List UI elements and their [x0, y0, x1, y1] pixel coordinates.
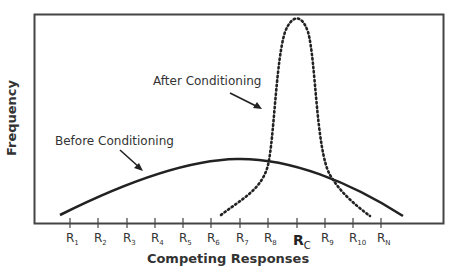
- x-tick-label-r3: R3: [123, 231, 136, 247]
- x-tick-label-r9: R9: [321, 231, 334, 247]
- plot-frame: [35, 15, 444, 224]
- after-conditioning-arrow: [230, 93, 262, 109]
- x-tick-label-rn: RN: [377, 231, 391, 247]
- x-tick-label-r2: R2: [94, 231, 107, 247]
- x-tick-label-r8: R8: [264, 231, 277, 247]
- x-tick-label-r7: R7: [236, 231, 249, 247]
- after-conditioning-label: After Conditioning: [153, 74, 261, 88]
- x-tick-label-rc: RC: [293, 232, 311, 251]
- x-tick-label-r6: R6: [207, 231, 220, 247]
- chart-canvas: R1R2R3R4R5R6R7R8RCR9R10RN After Conditio…: [0, 0, 453, 276]
- x-axis-title: Competing Responses: [147, 251, 310, 266]
- before-conditioning-label: Before Conditioning: [55, 134, 174, 148]
- before-conditioning-arrow: [120, 150, 143, 171]
- x-tick-label-r1: R1: [66, 231, 79, 247]
- x-tick-label-r10: R10: [349, 231, 366, 247]
- x-tick-label-r4: R4: [151, 231, 164, 247]
- x-tick-label-r5: R5: [179, 231, 192, 247]
- x-axis-tick-labels: R1R2R3R4R5R6R7R8RCR9R10RN: [66, 231, 391, 251]
- y-axis-title: Frequency: [4, 79, 19, 156]
